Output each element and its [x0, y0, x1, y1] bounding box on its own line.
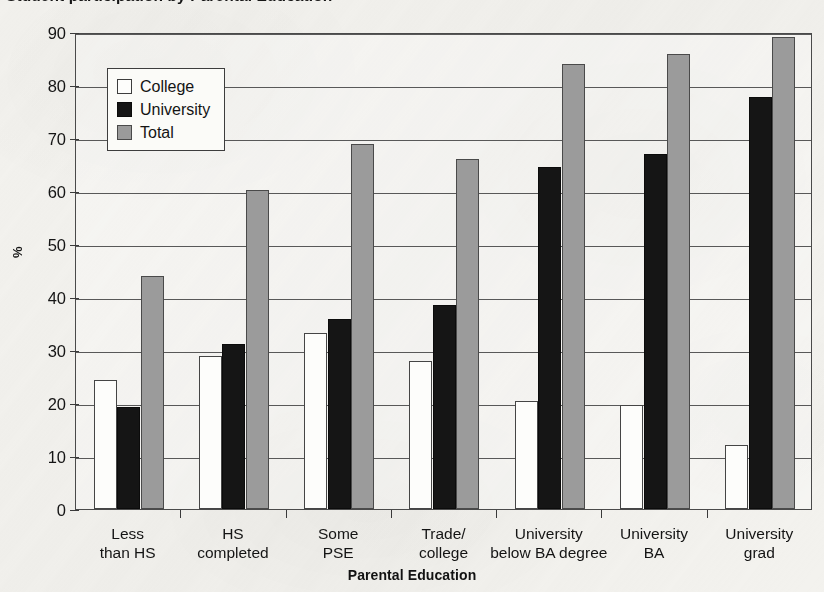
bar-group [602, 34, 707, 509]
y-tick-mark [70, 298, 79, 299]
bar-university [117, 407, 140, 509]
x-tick-mark [286, 510, 287, 518]
bar-university [749, 97, 772, 509]
x-tick-mark [391, 510, 392, 518]
y-tick-label: 40 [24, 289, 66, 308]
legend-swatch-university-icon [117, 102, 132, 117]
x-category-line: grad [684, 543, 824, 562]
bar-college [199, 356, 222, 509]
bar-group [287, 34, 392, 509]
legend-label-total: Total [140, 124, 174, 142]
x-category-label: Universitygrad [684, 524, 824, 562]
bar-university [433, 305, 456, 509]
y-tick-mark [70, 245, 79, 246]
bar-total [246, 190, 269, 509]
bar-college [94, 380, 117, 509]
y-tick-label: 90 [24, 24, 66, 43]
bar-university [222, 344, 245, 509]
legend-swatch-college-icon [117, 79, 132, 94]
bar-chart: Student participation by Parental Educat… [0, 0, 824, 592]
y-tick-mark [70, 33, 79, 34]
y-tick-mark [70, 192, 79, 193]
x-axis-title: Parental Education [0, 567, 824, 583]
x-tick-mark [707, 510, 708, 518]
chart-legend: College University Total [107, 68, 225, 151]
page-title: Student participation by Parental Educat… [6, 0, 332, 5]
bar-college [515, 401, 538, 509]
y-tick-label: 50 [24, 236, 66, 255]
y-tick-label: 30 [24, 342, 66, 361]
legend-swatch-total-icon [117, 125, 132, 140]
y-axis-title: % [10, 246, 25, 258]
bar-college [304, 333, 327, 509]
bar-total [351, 144, 374, 509]
x-category-line: University [684, 524, 824, 543]
y-tick-label: 60 [24, 183, 66, 202]
y-tick-label: 10 [24, 448, 66, 467]
y-tick-mark [70, 457, 79, 458]
bar-university [328, 319, 351, 509]
y-tick-mark [70, 510, 79, 511]
bar-total [772, 37, 795, 509]
legend-item-total: Total [117, 121, 210, 144]
x-tick-mark [601, 510, 602, 518]
bar-college [409, 361, 432, 509]
legend-item-college: College [117, 75, 210, 98]
y-tick-mark [70, 139, 79, 140]
bar-total [456, 159, 479, 509]
y-tick-mark [70, 404, 79, 405]
cropped-title-strip: Student participation by Parental Educat… [0, 0, 824, 12]
bar-group [392, 34, 497, 509]
y-tick-label: 80 [24, 77, 66, 96]
bar-group [708, 34, 813, 509]
bar-group [497, 34, 602, 509]
bar-total [562, 64, 585, 509]
y-tick-label: 0 [24, 501, 66, 520]
y-tick-label: 20 [24, 395, 66, 414]
x-tick-mark [180, 510, 181, 518]
legend-label-university: University [140, 101, 210, 119]
bar-university [538, 167, 561, 509]
legend-label-college: College [140, 78, 194, 96]
y-tick-mark [70, 86, 79, 87]
bar-total [667, 54, 690, 509]
bar-university [644, 154, 667, 509]
bar-total [141, 276, 164, 509]
x-tick-mark [496, 510, 497, 518]
bar-college [620, 405, 643, 509]
legend-item-university: University [117, 98, 210, 121]
y-tick-mark [70, 351, 79, 352]
y-tick-label: 70 [24, 130, 66, 149]
bar-college [725, 445, 748, 509]
